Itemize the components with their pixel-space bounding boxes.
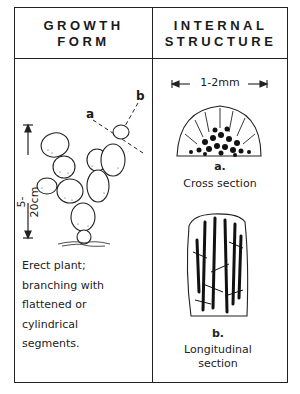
column-divider <box>152 8 153 382</box>
section-label-b: b <box>136 89 145 103</box>
internal-structure-header: INTERNAL STRUCTURE <box>153 12 288 56</box>
longitudinal-section-caption: b. Longitudinal section <box>178 327 258 371</box>
section-label-a: a <box>86 107 94 121</box>
height-scale-label: 5-20cm <box>15 182 41 222</box>
growth-form-description: Erect plant; branching with flattened or… <box>22 256 104 354</box>
cross-section-illustration <box>175 102 265 158</box>
header-divider <box>15 58 287 59</box>
longitudinal-section-illustration <box>183 212 253 320</box>
plant-illustration <box>0 80 152 260</box>
growth-form-header: GROWTH FORM <box>15 12 152 56</box>
width-scale-label: 1-2mm <box>190 76 250 89</box>
cross-section-caption: a. Cross section <box>180 160 260 191</box>
